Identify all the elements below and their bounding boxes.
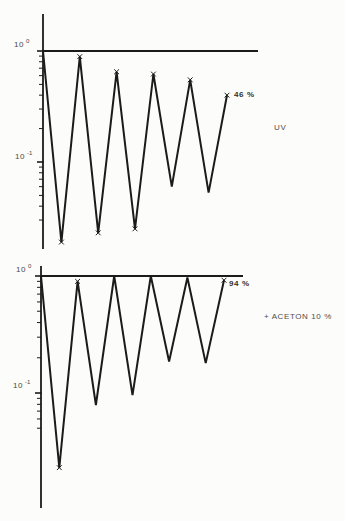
ytick-exponent: -1 (25, 379, 30, 385)
aceton-fatigue-curve (35, 266, 243, 508)
uv-fatigue-curve-polyline (43, 51, 227, 242)
ytick-base: 10 (15, 152, 25, 161)
uv-ytick-label-1e-1: 10-1 (15, 153, 32, 161)
uv-annotation: UV (274, 124, 286, 132)
aceton-annotation: + ACETON 10 % (264, 313, 332, 321)
ytick-base: 10 (14, 40, 24, 49)
aceton-ytick-label-1e0: 100 (16, 266, 31, 274)
ytick-exponent: -1 (27, 150, 32, 156)
ytick-base: 10 (16, 265, 26, 274)
ytick-exponent: 0 (26, 38, 29, 44)
figure: 100 10-1 46 % UV 100 10-1 94 % + ACETON … (0, 0, 345, 521)
uv-fatigue-curve (37, 14, 258, 249)
uv-end-value-label: 46 % (234, 91, 255, 99)
ytick-base: 10 (13, 381, 23, 390)
aceton-ytick-label-1e-1: 10-1 (13, 382, 30, 390)
uv-ytick-label-1e0: 100 (14, 41, 29, 49)
aceton-fatigue-curve-polyline (41, 276, 224, 468)
ytick-exponent: 0 (28, 263, 31, 269)
fatigue-cycles-plot (0, 0, 345, 521)
aceton-end-value-label: 94 % (229, 280, 250, 288)
